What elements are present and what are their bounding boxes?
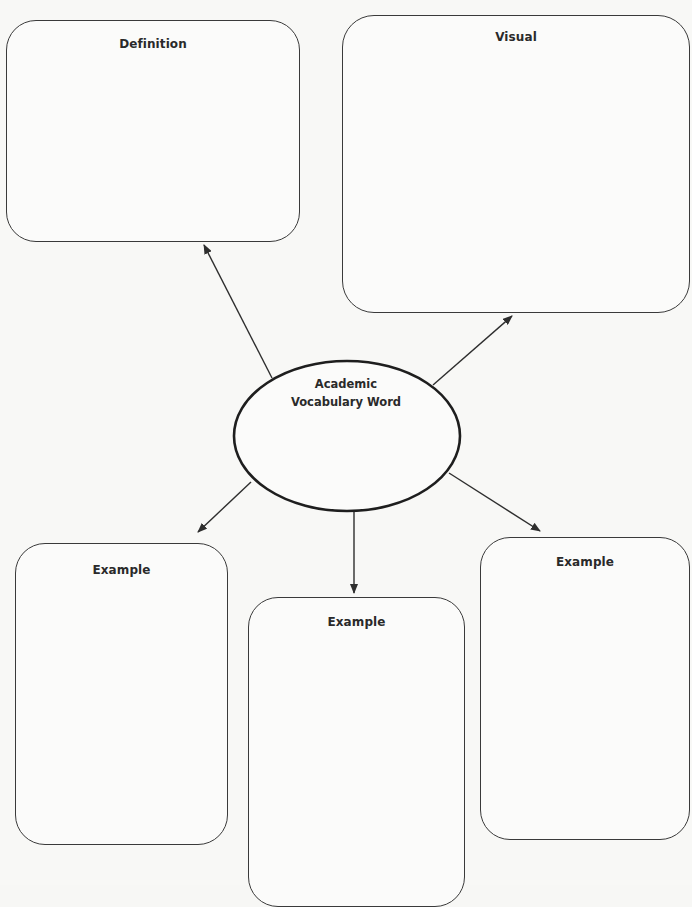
example-box-3[interactable]: Example (480, 537, 690, 840)
example-title-3: Example (481, 555, 689, 569)
center-label: Academic Vocabulary Word (233, 375, 459, 411)
example-title-1: Example (16, 563, 227, 577)
example-box-1[interactable]: Example (15, 543, 228, 845)
definition-box[interactable]: Definition (6, 20, 300, 242)
definition-title: Definition (7, 37, 299, 51)
arrow-to-example-3 (449, 473, 540, 531)
center-label-line-2: Vocabulary Word (233, 393, 459, 411)
arrow-to-definition (204, 245, 272, 378)
visual-title: Visual (343, 30, 689, 44)
visual-box[interactable]: Visual (342, 15, 690, 313)
example-box-2[interactable]: Example (248, 597, 465, 907)
center-label-line-1: Academic (233, 375, 459, 393)
arrow-to-example-1 (198, 482, 251, 532)
example-title-2: Example (249, 615, 464, 629)
